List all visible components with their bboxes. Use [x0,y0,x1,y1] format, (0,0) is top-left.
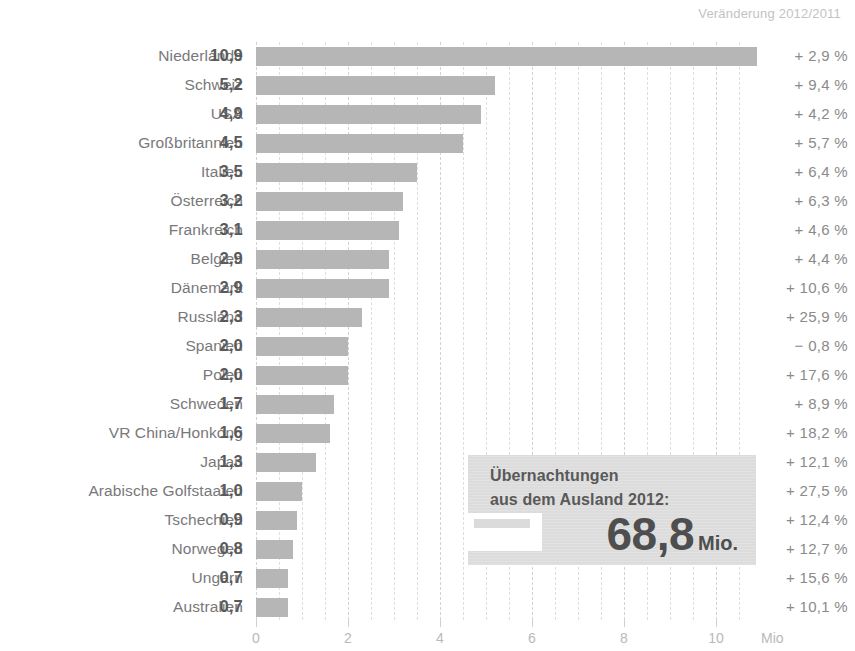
bar-track [256,47,758,66]
bar [256,279,389,298]
bar-row-value-label: 0,8 [186,539,243,558]
bar [256,540,293,559]
bar-row-change-label: + 27,5 % [768,482,848,499]
bar-track [256,221,758,240]
callout-total-unit: Mio. [698,532,738,554]
bar-track [256,366,758,385]
bar-row: VR China/Honkong1,6+ 18,2 % [0,421,855,450]
bar [256,105,481,124]
bar-row: Österreich3,2+ 6,3 % [0,189,855,218]
bar-row: USA4,9+ 4,2 % [0,102,855,131]
bar-row: Italien3,5+ 6,4 % [0,160,855,189]
callout-box: Übernachtungen aus dem Ausland 2012: 68,… [468,455,756,565]
callout-notch [468,513,542,551]
bar-track [256,569,758,588]
bar-row-value-label: 0,7 [186,597,243,616]
bar [256,511,297,530]
bar-row-change-label: + 10,1 % [768,598,848,615]
x-axis-tick [532,620,533,627]
x-axis: Mio 0246810 [256,620,758,650]
bar [256,192,403,211]
x-axis-tick-label: 6 [528,630,536,646]
bar [256,569,288,588]
bar-row-value-label: 4,9 [186,104,243,123]
bar-row-change-label: + 6,4 % [768,163,848,180]
bar-row-change-label: + 12,1 % [768,453,848,470]
bar [256,337,348,356]
chart-plot-area: Niederlande10,9+ 2,9 %Schweiz5,2+ 9,4 %U… [0,0,855,651]
x-axis-tick [624,620,625,627]
bar [256,47,757,66]
bar-row-change-label: + 17,6 % [768,366,848,383]
bar-row: Belgien2,9+ 4,4 % [0,247,855,276]
bar-row: Frankreich3,1+ 4,6 % [0,218,855,247]
bar [256,134,463,153]
bar-row-change-label: + 12,7 % [768,540,848,557]
bar [256,221,399,240]
x-axis-tick-label: 10 [708,630,724,646]
bar-row-value-label: 3,2 [186,191,243,210]
x-axis-tick-label: 4 [436,630,444,646]
bar [256,163,417,182]
bar-track [256,134,758,153]
x-axis-tick [348,620,349,627]
bar [256,308,362,327]
bar-row: Ungarn0,7+ 15,6 % [0,566,855,595]
x-axis-tick-label: 8 [620,630,628,646]
x-axis-tick [716,620,717,627]
bar-row-value-label: 2,0 [186,365,243,384]
bar-row: Dänemark2,9+ 10,6 % [0,276,855,305]
bar-row-value-label: 5,2 [186,75,243,94]
bar-row-value-label: 1,6 [186,423,243,442]
bar-track [256,250,758,269]
bar-row: Spanien2,0− 0,8 % [0,334,855,363]
x-axis-tick-label: 0 [252,630,260,646]
bar-row-value-label: 2,9 [186,249,243,268]
bar-row-change-label: + 6,3 % [768,192,848,209]
bar-row-change-label: + 10,6 % [768,279,848,296]
bar-row-value-label: 10,9 [186,46,243,65]
bar-row-value-label: 1,0 [186,481,243,500]
bar-row-change-label: + 9,4 % [768,76,848,93]
bar-row-value-label: 4,5 [186,133,243,152]
bar-row-value-label: 0,9 [186,510,243,529]
bar-row: Großbritannien4,5+ 5,7 % [0,131,855,160]
bar-row-change-label: + 25,9 % [768,308,848,325]
bar-row-value-label: 3,5 [186,162,243,181]
bar-row-change-label: + 5,7 % [768,134,848,151]
bar-track [256,192,758,211]
bar-track [256,279,758,298]
bar-row: Schweden1,7+ 8,9 % [0,392,855,421]
bar [256,366,348,385]
bar-row: Russland2,3+ 25,9 % [0,305,855,334]
bar-track [256,105,758,124]
bar-row-change-label: + 4,4 % [768,250,848,267]
bar-row-value-label: 2,0 [186,336,243,355]
bar-row-change-label: + 4,6 % [768,221,848,238]
bar [256,76,495,95]
bar-track [256,424,758,443]
bar [256,250,389,269]
bar-track [256,395,758,414]
bar-row-change-label: + 15,6 % [768,569,848,586]
bar [256,453,316,472]
bar-row-value-label: 0,7 [186,568,243,587]
callout-total: 68,8Mio. [606,507,738,561]
bar-row: Niederlande10,9+ 2,9 % [0,44,855,73]
x-axis-unit-label: Mio [761,630,784,646]
bar-row-change-label: − 0,8 % [768,337,848,354]
bar-row: Schweiz5,2+ 9,4 % [0,73,855,102]
bar-row-value-label: 2,9 [186,278,243,297]
bar [256,424,330,443]
bar-row-change-label: + 12,4 % [768,511,848,528]
bar [256,395,334,414]
bar-row-value-label: 2,3 [186,307,243,326]
bar-row-change-label: + 8,9 % [768,395,848,412]
bar-row: Polen2,0+ 17,6 % [0,363,855,392]
callout-total-value: 68,8 [606,508,694,560]
x-axis-tick [440,620,441,627]
bar-row-value-label: 3,1 [186,220,243,239]
bar-row-value-label: 1,7 [186,394,243,413]
bar [256,482,302,501]
x-axis-tick [256,620,257,627]
